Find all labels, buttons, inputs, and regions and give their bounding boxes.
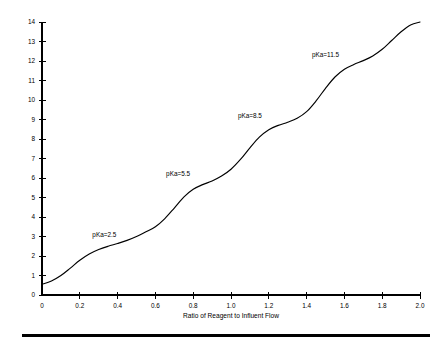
y-axis-tick-label: 7 bbox=[31, 155, 35, 162]
pka-annotation-label: pKa=8.5 bbox=[238, 112, 262, 120]
x-axis-tick-label: 0.2 bbox=[75, 302, 84, 309]
x-axis-tick-label: 0.6 bbox=[151, 302, 160, 309]
y-axis-tick-label: 1 bbox=[31, 272, 35, 279]
y-axis-tick-label: 8 bbox=[31, 135, 35, 142]
x-axis: 00.20.40.60.81.01.21.41.61.82.0 bbox=[40, 292, 425, 310]
y-axis-tick-label: 9 bbox=[31, 116, 35, 123]
x-axis-title: Ratio of Reagent to Influent Flow bbox=[183, 312, 279, 320]
y-axis-tick-label: 13 bbox=[28, 38, 36, 45]
y-axis-tick-label: 11 bbox=[28, 77, 35, 84]
y-axis-tick-label: 0 bbox=[31, 291, 35, 298]
x-axis-tick-label: 1.2 bbox=[264, 302, 273, 309]
y-axis: 01234567891011121314 bbox=[28, 18, 46, 298]
x-axis-tick-label: 0.8 bbox=[189, 302, 198, 309]
pka-annotation-label: pKa=2.5 bbox=[92, 231, 116, 239]
y-axis-tick-label: 12 bbox=[28, 57, 36, 64]
x-axis-tick-label: 0 bbox=[40, 302, 44, 309]
y-axis-tick-label: 6 bbox=[31, 174, 35, 181]
y-axis-tick-label: 2 bbox=[31, 252, 35, 259]
data-series-titration-curve bbox=[42, 22, 420, 284]
y-axis-tick-label: 10 bbox=[28, 96, 36, 103]
titration-curve-line bbox=[42, 22, 420, 284]
y-axis-tick-label: 3 bbox=[31, 233, 35, 240]
x-axis-tick-label: 1.6 bbox=[340, 302, 349, 309]
x-axis-tick-label: 0.4 bbox=[113, 302, 122, 309]
y-axis-tick-label: 14 bbox=[28, 18, 36, 25]
x-axis-tick-label: 1.0 bbox=[227, 302, 236, 309]
annotation-layer: pKa=2.5pKa=5.5pKa=8.5pKa=11.5 bbox=[92, 51, 339, 239]
x-axis-tick-label: 1.4 bbox=[302, 302, 311, 309]
y-axis-tick-label: 5 bbox=[31, 194, 35, 201]
figure-container: 01234567891011121314 00.20.40.60.81.01.2… bbox=[0, 0, 441, 342]
x-axis-tick-label: 2.0 bbox=[416, 302, 425, 309]
pka-annotation-label: pKa=5.5 bbox=[166, 170, 190, 178]
titration-chart: 01234567891011121314 00.20.40.60.81.01.2… bbox=[0, 0, 441, 342]
x-axis-tick-label: 1.8 bbox=[378, 302, 387, 309]
pka-annotation-label: pKa=11.5 bbox=[312, 51, 340, 59]
footer-rule bbox=[22, 334, 430, 337]
y-axis-tick-label: 4 bbox=[31, 213, 35, 220]
